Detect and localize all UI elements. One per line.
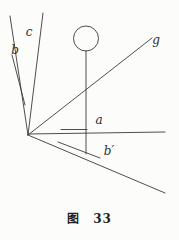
figure-caption-label: 图 bbox=[67, 209, 80, 226]
label-b-prime: b′ bbox=[104, 144, 115, 158]
line-axis-horizontal bbox=[28, 132, 165, 134]
geometry-diagram: cbgab′ bbox=[0, 0, 179, 205]
line-b-double-stroke bbox=[12, 55, 25, 105]
line-g bbox=[28, 38, 152, 135]
figure-caption-number: 33 bbox=[93, 212, 112, 226]
label-c: c bbox=[26, 25, 33, 39]
label-b: b bbox=[11, 43, 19, 57]
head-circle bbox=[74, 26, 99, 51]
figure-caption: 图 33 bbox=[0, 209, 179, 226]
label-a: a bbox=[95, 113, 102, 127]
figure-page: cbgab′ 图 33 bbox=[0, 0, 179, 240]
label-g: g bbox=[152, 33, 160, 47]
line-axis-diagonal bbox=[28, 135, 165, 193]
